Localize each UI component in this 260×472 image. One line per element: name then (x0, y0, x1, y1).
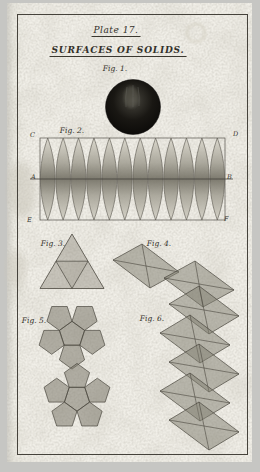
plate-subtitle-text: SURFACES OF SOLIDS. (50, 45, 187, 57)
point-label-c: C (30, 131, 35, 139)
fig3-label: Fig. 3. (41, 239, 65, 248)
fig2-label: Fig. 2. (60, 126, 84, 135)
plate-subtitle: SURFACES OF SOLIDS. (50, 45, 187, 55)
point-label-a: A (31, 173, 36, 181)
fig5-label: Fig. 5. (22, 316, 46, 325)
fig4-label: Fig. 4. (147, 239, 171, 248)
plate-border-frame (17, 14, 248, 455)
point-label-f: F (224, 215, 229, 223)
scanned-plate: Plate 17. SURFACES OF SOLIDS. Fig. 1. Fi… (0, 0, 260, 472)
fig6-label: Fig. 6. (140, 314, 164, 323)
point-label-b: B (227, 173, 232, 181)
point-label-e: E (27, 216, 32, 224)
plate-title-text: Plate 17. (92, 25, 141, 37)
point-label-d: D (233, 130, 238, 138)
plate-title: Plate 17. (92, 25, 141, 35)
fig1-label: Fig. 1. (103, 64, 127, 73)
